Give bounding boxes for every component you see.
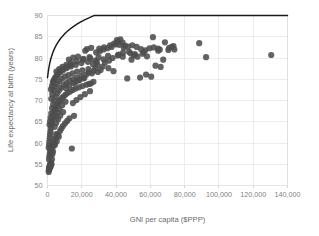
data-point xyxy=(203,54,209,60)
data-point xyxy=(268,52,274,58)
data-point xyxy=(144,53,150,59)
data-point xyxy=(101,44,107,50)
data-point xyxy=(150,34,156,40)
data-point xyxy=(62,99,68,105)
x-axis-title: GNI per capita ($PPP) xyxy=(130,215,206,224)
x-tick-label: 40,000 xyxy=(105,190,127,199)
data-point xyxy=(162,39,168,45)
data-point xyxy=(128,57,134,63)
data-point xyxy=(68,62,74,68)
data-point xyxy=(160,57,166,63)
scatter-chart: 505560657075808590 020,00040,00060,00080… xyxy=(0,0,319,236)
y-tick-label: 50 xyxy=(35,181,43,190)
data-point xyxy=(158,64,164,70)
data-point xyxy=(86,54,92,60)
data-point xyxy=(75,54,81,60)
y-tick-label: 90 xyxy=(35,11,43,20)
data-point xyxy=(126,49,132,55)
x-tick-label: 100,000 xyxy=(206,190,232,199)
data-point xyxy=(82,48,88,54)
data-point xyxy=(94,59,100,65)
data-point xyxy=(90,79,96,85)
data-point xyxy=(152,63,158,69)
data-point xyxy=(169,44,175,50)
data-point xyxy=(106,57,112,63)
data-point xyxy=(157,46,163,52)
x-tick-label: 60,000 xyxy=(139,190,161,199)
data-point xyxy=(80,75,86,81)
data-point xyxy=(71,113,77,119)
data-point xyxy=(88,45,94,51)
data-point xyxy=(48,144,54,150)
data-point xyxy=(53,131,59,137)
data-point xyxy=(74,69,80,75)
data-point xyxy=(69,145,75,151)
y-tick-label: 65 xyxy=(35,117,43,126)
x-tick-label: 0 xyxy=(46,190,50,199)
chart-canvas: 505560657075808590 020,00040,00060,00080… xyxy=(0,0,319,236)
x-tick-label: 140,000 xyxy=(275,190,301,199)
data-point xyxy=(79,67,85,73)
y-axis-title: Life expectancy at birth (years) xyxy=(6,48,15,152)
data-point xyxy=(196,40,202,46)
y-tick-label: 80 xyxy=(35,54,43,63)
y-tick-label: 75 xyxy=(35,75,43,84)
data-point xyxy=(91,68,97,74)
data-point xyxy=(120,50,126,56)
y-tick-label: 85 xyxy=(35,32,43,41)
data-point xyxy=(87,88,93,94)
x-tick-label: 120,000 xyxy=(240,190,266,199)
data-point xyxy=(60,109,66,115)
y-tick-label: 55 xyxy=(35,160,43,169)
data-point xyxy=(80,56,86,62)
data-point xyxy=(137,74,143,80)
y-tick-label: 70 xyxy=(35,96,43,105)
data-point xyxy=(148,74,154,80)
x-tick-label: 20,000 xyxy=(71,190,93,199)
data-point xyxy=(98,67,104,73)
y-axis-tick-labels: 505560657075808590 xyxy=(35,11,43,190)
x-tick-label: 80,000 xyxy=(174,190,196,199)
data-point xyxy=(110,68,116,74)
data-point xyxy=(124,75,130,81)
x-axis-tick-labels: 020,00040,00060,00080,000100,000120,0001… xyxy=(46,190,301,199)
y-tick-label: 60 xyxy=(35,139,43,148)
